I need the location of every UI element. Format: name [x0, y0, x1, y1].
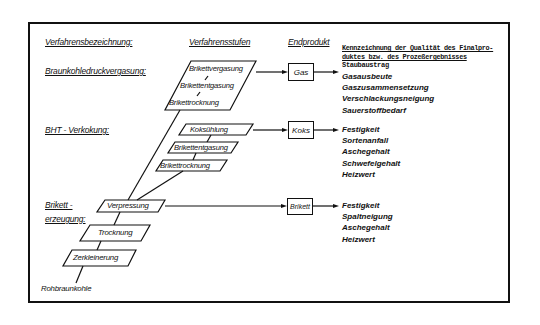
quality-coke-item: Festigkeit — [342, 124, 400, 135]
quality-gas-item: Gasausbeute — [342, 71, 434, 82]
quality-list-gas: Staubaustrag Gasausbeute Gaszusammensetz… — [342, 60, 434, 116]
raw-material-label: Rohbraunkohle — [41, 284, 91, 293]
stage-trocknung: Trocknung — [98, 228, 132, 237]
quality-briquette-item: Heizwert — [342, 234, 393, 245]
quality-gas-item: Staubaustrag — [342, 60, 434, 71]
quality-coke-item: Aschegehalt — [342, 146, 400, 157]
product-gas-box: Gas — [288, 63, 314, 81]
quality-gas-item: Gaszusammensetzung — [342, 82, 434, 93]
product-briquette-box: Brikett — [287, 198, 313, 215]
quality-list-briquette: Festigkeit Spaltneigung Aschegehalt Heiz… — [342, 200, 393, 245]
stage-brikettvergasung: Brikettvergasung — [189, 64, 243, 73]
stage-zerkleinerung: Zerkleinerung — [73, 253, 118, 262]
stage-verpressung: Verpressung — [107, 201, 149, 210]
product-coke-box: Koks — [288, 121, 314, 139]
quality-briquette-item: Spaltneigung — [342, 211, 393, 222]
flow-diagram-lines — [0, 0, 540, 325]
quality-list-coke: Festigkeit Sortenanfall Aschegehalt Schw… — [342, 124, 400, 180]
quality-coke-item: Heizwert — [342, 169, 400, 180]
quality-briquette-item: Aschegehalt — [342, 222, 393, 233]
stage-coke-brikettentgasung: Brikettentgasung — [174, 143, 228, 152]
quality-briquette-item: Festigkeit — [342, 200, 393, 211]
quality-gas-item: Sauerstoffbedarf — [342, 105, 434, 116]
stage-coke-brikettrocknung: Brikettrocknung — [160, 161, 210, 170]
stage-koksuhlung: Koksühlung — [190, 125, 228, 134]
stage-brikettentgasung: Brikettentgasung — [180, 81, 234, 90]
stage-brikettrocknung: Brikettrocknung — [169, 98, 219, 107]
quality-coke-item: Sortenanfall — [342, 135, 400, 146]
quality-coke-item: Schwefelgehalt — [342, 158, 400, 169]
quality-gas-item: Verschlackungsneigung — [342, 93, 434, 104]
